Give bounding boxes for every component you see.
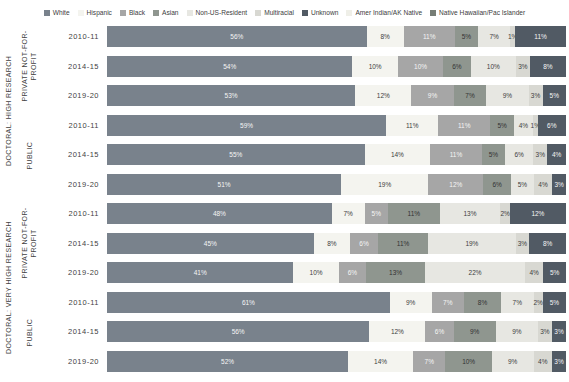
bar-segment-asian: 6% [483, 174, 511, 195]
axis-control-label: PRIVATE NOT-FOR-PROFIT [17, 199, 43, 288]
segment-value-label: 4% [552, 151, 561, 158]
segment-value-label: 10% [487, 63, 500, 70]
bar-segment-white: 54% [107, 56, 352, 77]
legend-item-5: Multiracial [255, 9, 294, 16]
bar-row: 45%8%6%11%19%3%8% [107, 229, 566, 259]
segment-value-label: 5% [518, 181, 527, 188]
legend-swatch-icon [346, 10, 352, 16]
bar-segment-white: 52% [107, 351, 348, 372]
segment-value-label: 54% [223, 63, 236, 70]
bar-segment-multiracial: 3% [538, 321, 552, 342]
segment-value-label: 10% [369, 63, 382, 70]
segment-value-label: 11% [397, 240, 410, 247]
bar-segment-white: 48% [107, 203, 332, 224]
segment-value-label: 10% [310, 269, 323, 276]
bar-segment-hispanic: 19% [341, 174, 428, 195]
axis-year-label: 2010-11 [43, 111, 107, 141]
bar-segment-white: 56% [107, 26, 367, 47]
bar-segment-asian: 11% [378, 233, 428, 254]
bar-segment-white: 51% [107, 174, 341, 195]
segment-value-label: 9% [503, 92, 512, 99]
bar-segment-unknown: 5% [543, 85, 566, 106]
bar-segment-black: 10% [398, 56, 443, 77]
segment-value-label: 8% [543, 63, 552, 70]
segment-value-label: 6% [359, 240, 368, 247]
axis-year-label: 2010-11 [43, 22, 107, 52]
stacked-bar: 48%7%5%11%13%2%12% [107, 203, 566, 224]
bar-segment-asian: 5% [455, 26, 478, 47]
bar-segment-unknown: 11% [515, 26, 566, 47]
bar-segment-unknown: 4% [547, 144, 566, 165]
bar-row: 56%12%6%9%9%3%3% [107, 317, 566, 347]
bar-segment-black: 12% [428, 174, 483, 195]
segment-value-label: 7% [425, 358, 434, 365]
axis-year-label: 2014-15 [43, 52, 107, 82]
segment-value-label: 61% [242, 299, 255, 306]
bar-segment-hispanic: 12% [355, 85, 411, 106]
legend-item-6: Unknown [302, 9, 339, 16]
segment-value-label: 55% [229, 151, 242, 158]
legend-item-7: Amer Indian/AK Native [346, 9, 422, 16]
stacked-bar: 52%14%7%10%9%4%3% [107, 351, 566, 372]
segment-value-label: 7% [513, 299, 522, 306]
bar-segment-non-us-resident: 6% [505, 144, 533, 165]
segment-value-label: 13% [463, 210, 476, 217]
bar-segment-black: 11% [438, 115, 490, 136]
bar-segment-unknown: 6% [538, 115, 566, 136]
segment-value-label: 12% [531, 210, 544, 217]
segment-value-label: 5% [497, 122, 506, 129]
segment-value-label: 12% [391, 328, 404, 335]
bar-segment-hispanic: 8% [314, 233, 351, 254]
segment-value-label: 11% [408, 210, 421, 217]
bar-segment-unknown: 3% [552, 321, 566, 342]
segment-value-label: 6% [452, 63, 461, 70]
bar-segment-asian: 11% [388, 203, 440, 224]
legend-item-0: White [44, 9, 70, 16]
segment-value-label: 3% [536, 151, 545, 158]
bar-row: 52%14%7%10%9%4%3% [107, 347, 566, 377]
segment-value-label: 3% [518, 63, 527, 70]
segment-value-label: 9% [428, 92, 437, 99]
segment-value-label: 6% [348, 269, 357, 276]
bar-row: 56%8%11%5%7%1%11% [107, 22, 566, 52]
bar-segment-black: 6% [350, 233, 378, 254]
axis-year-label: 2014-15 [43, 140, 107, 170]
segment-value-label: 8% [543, 240, 552, 247]
legend-label: Multiracial [264, 9, 294, 16]
bar-row: 48%7%5%11%13%2%12% [107, 199, 566, 229]
segment-value-label: 41% [194, 269, 207, 276]
segment-value-label: 56% [232, 328, 245, 335]
segment-value-label: 5% [462, 33, 471, 40]
bar-segment-unknown: 8% [529, 233, 566, 254]
legend-item-8: Native Hawaiian/Pac Islander [430, 9, 525, 16]
segment-value-label: 5% [489, 151, 498, 158]
segment-value-label: 3% [554, 328, 563, 335]
bar-row: 59%11%11%5%4%1%6% [107, 111, 566, 141]
bar-segment-multiracial: 3% [529, 85, 543, 106]
legend-item-1: Hispanic [78, 9, 112, 16]
bar-segment-unknown: 3% [552, 174, 566, 195]
bar-row: 51%19%12%6%5%4%3% [107, 170, 566, 200]
legend-item-3: Asian [153, 9, 179, 16]
axis-year-label: 2010-11 [43, 288, 107, 318]
stacked-bar: 53%12%9%7%9%3%5% [107, 85, 566, 106]
legend-label: Hispanic [87, 9, 112, 16]
segment-value-label: 8% [327, 240, 336, 247]
bar-segment-white: 56% [107, 321, 369, 342]
segment-value-label: 10% [462, 358, 475, 365]
bar-segment-non-us-resident: 7% [478, 26, 510, 47]
bar-segment-hispanic: 14% [365, 144, 431, 165]
segment-value-label: 52% [221, 358, 234, 365]
bar-segment-unknown: 12% [510, 203, 566, 224]
segment-value-label: 48% [213, 210, 226, 217]
segment-value-label: 13% [389, 269, 402, 276]
segment-value-label: 10% [414, 63, 427, 70]
segment-value-label: 6% [547, 122, 556, 129]
axis-year-label: 2010-11 [43, 199, 107, 229]
bar-segment-asian: 5% [490, 115, 514, 136]
axis-control-label: PUBLIC [17, 288, 43, 377]
segment-value-label: 7% [489, 33, 498, 40]
bar-segment-black: 6% [339, 262, 366, 283]
segment-value-label: 19% [378, 181, 391, 188]
axis-control-label: PUBLIC [17, 111, 43, 200]
